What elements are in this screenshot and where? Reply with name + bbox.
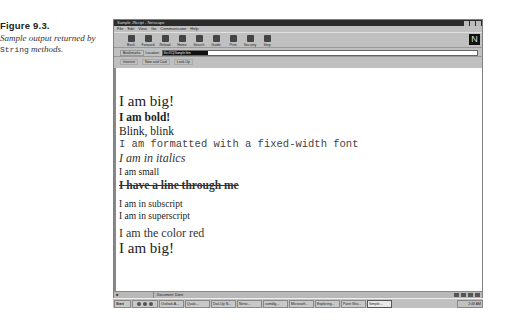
navigator-icon[interactable] [454,293,459,297]
mail-icon[interactable] [461,293,466,297]
print-button[interactable]: Print [226,33,240,47]
link-new-and-cool[interactable]: New and Cool [142,59,170,65]
text-subscript: I am in subscript [119,198,482,210]
window-title: Sample JScript - Netscape [117,20,164,25]
text-fixed: I am formatted with a fixed-width font [119,138,482,151]
search-button[interactable]: Search [192,33,206,47]
home-icon [179,35,186,42]
location-value: file:///C|/Sample.htm [163,51,208,55]
print-icon [230,35,237,42]
text-big-2: I am big! [119,240,482,256]
location-input[interactable]: file:///C|/Sample.htm [162,50,478,56]
reload-button[interactable]: Reload [158,33,172,47]
text-strike: I have a line through me [119,178,482,192]
task-netscape[interactable]: Netsc... [237,300,262,308]
guide-button[interactable]: Guide [209,33,223,47]
back-icon [128,35,135,42]
location-bar: Bookmarks Location: file:///C|/Sample.ht… [114,49,482,57]
quick-launch [132,300,158,308]
figure-description: Sample output returned by String methods… [0,33,108,55]
text-superscript: I am in superscript [119,210,482,222]
back-button[interactable]: Back [124,33,138,47]
task-outlook[interactable]: Outlook A... [159,300,184,308]
code-string: String [0,45,29,54]
navigation-toolbar: Back Forward Reload Home Search Guide Pr… [114,32,482,48]
forward-icon [145,35,152,42]
task-dialup[interactable]: Dial-Up N... [211,300,236,308]
page-content: I am big! I am bold! Blink, blink I am f… [114,68,482,291]
text-bold: I am bold! [119,110,482,124]
search-icon [196,35,203,42]
forward-button[interactable]: Forward [141,33,155,47]
task-qualcomm[interactable]: Qualc... [185,300,210,308]
security-icon [247,35,254,42]
figure-caption: Figure 9.3. Sample output returned by St… [0,20,108,55]
desktop-icon[interactable] [143,302,147,306]
text-small: I am small [119,166,482,178]
location-label: Location: [146,50,160,56]
task-exploring[interactable]: Exploring... [315,300,340,308]
close-button[interactable] [476,21,481,26]
link-internet[interactable]: Internet [120,59,138,65]
browser-window: Sample JScript - Netscape File Edit View… [113,19,483,298]
discussion-icon[interactable] [468,293,473,297]
system-tray-clock[interactable]: 2:48 AM [457,300,483,308]
text-red: I am the color red [119,226,482,240]
start-button[interactable]: Start [114,300,131,308]
channels-icon[interactable] [149,302,153,306]
taskbar: Start Outlook A... Qualc... Dial-Up N...… [113,298,483,308]
ie-icon[interactable] [137,302,141,306]
stop-button[interactable]: Stop [260,33,274,47]
figure-label: Figure 9.3. [0,20,108,31]
task-simple[interactable]: Simple... [367,300,392,308]
task-microsoft[interactable]: Microsoft... [289,300,314,308]
stop-icon [264,35,271,42]
status-bar: ■ Document: Done [114,291,482,298]
netscape-logo[interactable]: N [469,34,480,45]
reload-icon [162,35,169,42]
task-comdlg[interactable]: comdlg... [263,300,288,308]
composer-icon[interactable] [475,293,480,297]
personal-toolbar: Internet New and Cool Look Up [114,58,482,66]
text-big: I am big! [119,94,482,109]
bookmarks-button[interactable]: Bookmarks [120,50,144,56]
text-blink: Blink, blink [119,124,482,138]
home-button[interactable]: Home [175,33,189,47]
minimize-button[interactable] [464,21,469,26]
maximize-button[interactable] [470,21,475,26]
task-paintshop[interactable]: Paint Sho... [341,300,366,308]
text-italics: I am in italics [119,151,482,166]
security-button[interactable]: Security [243,33,257,47]
guide-icon [213,35,220,42]
link-look-up[interactable]: Look Up [174,59,193,65]
